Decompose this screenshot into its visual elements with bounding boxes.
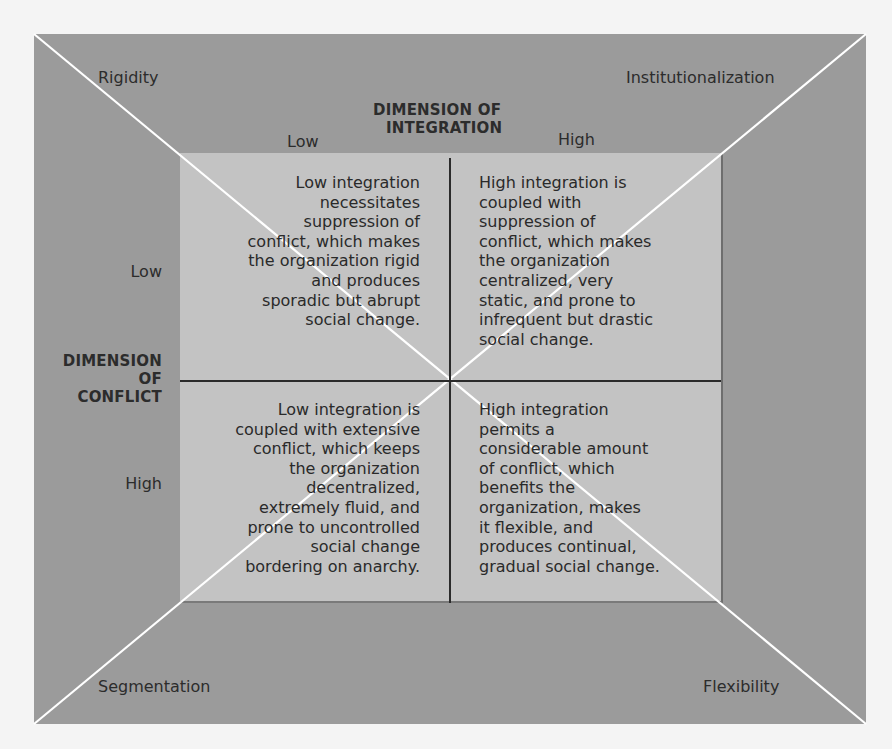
quadrant-text-line: conflict, which keeps xyxy=(190,439,420,459)
quadrant-text-line: suppression of xyxy=(190,212,420,232)
quadrant-text-line: Low integration xyxy=(190,173,420,193)
quadrant-text-line: infrequent but drastic xyxy=(479,310,719,330)
quadrant-text-line: Low integration is xyxy=(190,400,420,420)
horizontal-divider xyxy=(180,380,721,382)
y-axis-title-line1: DIMENSION xyxy=(52,352,162,370)
quadrant-text-line: static, and prone to xyxy=(479,291,719,311)
quadrant-text-line: considerable amount xyxy=(479,439,719,459)
quadrant-text-line: coupled with xyxy=(479,193,719,213)
x-axis-title-line2: INTEGRATION xyxy=(372,119,502,137)
corner-label-institutionalization: Institutionalization xyxy=(626,68,775,87)
quadrant-text-line: coupled with extensive xyxy=(190,420,420,440)
quadrant-text-line: High integration xyxy=(479,400,719,420)
quadrant-high-integration-low-conflict: High integration is coupled with suppres… xyxy=(479,173,719,349)
x-axis-title-line1: DIMENSION OF xyxy=(372,101,502,119)
y-axis-low-label: Low xyxy=(120,262,162,281)
corner-label-rigidity: Rigidity xyxy=(98,68,159,87)
quadrant-text-line: it flexible, and xyxy=(479,518,719,538)
x-axis-high-label: High xyxy=(558,130,595,149)
quadrant-text-line: benefits the xyxy=(479,478,719,498)
quadrant-text-line: and produces xyxy=(190,271,420,291)
quadrant-text-line: decentralized, xyxy=(190,478,420,498)
quadrant-text-line: sporadic but abrupt xyxy=(190,291,420,311)
quadrant-text-line: produces continual, xyxy=(479,537,719,557)
quadrant-text-line: the organization rigid xyxy=(190,251,420,271)
quadrant-text-line: suppression of xyxy=(479,212,719,232)
quadrant-text-line: the organization xyxy=(479,251,719,271)
corner-label-segmentation: Segmentation xyxy=(98,677,210,696)
corner-label-flexibility: Flexibility xyxy=(703,677,779,696)
y-axis-high-label: High xyxy=(110,474,162,493)
quadrant-text-line: High integration is xyxy=(479,173,719,193)
quadrant-text-line: prone to uncontrolled xyxy=(190,518,420,538)
y-axis-title-line2: OF xyxy=(52,370,162,388)
quadrant-text-line: the organization xyxy=(190,459,420,479)
quadrant-low-integration-high-conflict: Low integration is coupled with extensiv… xyxy=(190,400,420,576)
quadrant-text-line: gradual social change. xyxy=(479,557,719,577)
y-axis-title-line3: CONFLICT xyxy=(52,388,162,406)
quadrant-text-line: necessitates xyxy=(190,193,420,213)
quadrant-text-line: social change. xyxy=(479,330,719,350)
quadrant-text-line: permits a xyxy=(479,420,719,440)
quadrant-low-integration-low-conflict: Low integration necessitates suppression… xyxy=(190,173,420,330)
quadrant-text-line: social change xyxy=(190,537,420,557)
x-axis-title: DIMENSION OF INTEGRATION xyxy=(372,101,502,137)
quadrant-text-line: centralized, very xyxy=(479,271,719,291)
quadrant-high-integration-high-conflict: High integration permits a considerable … xyxy=(479,400,719,576)
quadrant-text-line: bordering on anarchy. xyxy=(190,557,420,577)
quadrant-text-line: of conflict, which xyxy=(479,459,719,479)
quadrant-text-line: extremely fluid, and xyxy=(190,498,420,518)
quadrant-text-line: conflict, which makes xyxy=(190,232,420,252)
quadrant-text-line: organization, makes xyxy=(479,498,719,518)
quadrant-text-line: conflict, which makes xyxy=(479,232,719,252)
y-axis-title: DIMENSION OF CONFLICT xyxy=(52,352,162,406)
x-axis-low-label: Low xyxy=(287,132,319,151)
quadrant-text-line: social change. xyxy=(190,310,420,330)
